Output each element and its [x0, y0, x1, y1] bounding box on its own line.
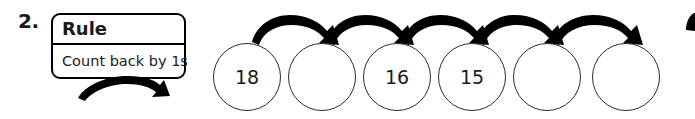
- sequence-circle-5[interactable]: [513, 43, 581, 111]
- rule-box-body: Count back by 1s: [53, 45, 184, 78]
- sequence-circle-1[interactable]: 18: [213, 43, 281, 111]
- worksheet-problem: 2. Rule Count back by 1s: [0, 0, 695, 119]
- sequence-circle-6[interactable]: [592, 43, 660, 111]
- rule-box-header: Rule: [53, 15, 184, 45]
- sequence-arrow: [327, 15, 414, 45]
- rule-arrow: [78, 76, 170, 101]
- clipped-arrow-edge: [686, 13, 695, 31]
- sequence-circle-3[interactable]: 16: [363, 43, 431, 111]
- sequence-circle-value: 18: [235, 68, 259, 87]
- sequence-arrow: [402, 15, 489, 45]
- rule-box: Rule Count back by 1s: [51, 13, 186, 79]
- problem-number: 2.: [18, 11, 39, 31]
- sequence-circle-4[interactable]: 15: [438, 43, 506, 111]
- rule-box-header-label: Rule: [62, 20, 107, 38]
- sequence-circle-2[interactable]: [288, 43, 356, 111]
- sequence-arrow: [552, 15, 643, 45]
- sequence-arrow: [252, 15, 339, 45]
- sequence-circle-value: 16: [385, 68, 409, 87]
- rule-box-body-text: Count back by 1s: [62, 54, 188, 69]
- sequence-circle-value: 15: [460, 68, 484, 87]
- sequence-arrow: [477, 15, 564, 45]
